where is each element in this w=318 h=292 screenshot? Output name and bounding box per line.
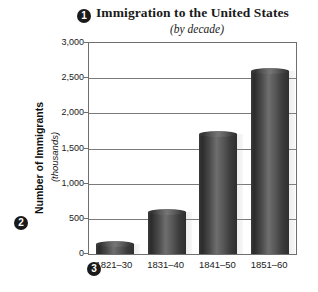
plot-area xyxy=(88,42,297,255)
y-axis-tick-labels: 05001,0001,5002,0002,5003,000 xyxy=(46,42,84,255)
y-axis-tick-label: 3,000 xyxy=(50,37,84,47)
bar xyxy=(199,134,237,254)
x-axis-tick-label: 1841–50 xyxy=(199,259,236,270)
y-axis-tick-mark xyxy=(84,148,88,149)
callout-badge-3: 3 xyxy=(87,262,101,276)
bar xyxy=(251,71,289,254)
bar-top-cap xyxy=(251,68,289,74)
y-axis-tick-label: 2,000 xyxy=(50,107,84,117)
bar-top-cap xyxy=(199,131,237,137)
y-axis-tick-mark xyxy=(84,218,88,219)
chart-title: Immigration to the United States xyxy=(96,5,311,21)
chart-subtitle: (by decade) xyxy=(96,23,298,35)
y-axis-tick-mark xyxy=(84,253,88,254)
bar xyxy=(96,244,134,254)
y-axis-tick-mark xyxy=(84,77,88,78)
y-axis-title-group: Number of Immigrants xyxy=(29,83,45,233)
callout-badge-2: 2 xyxy=(14,216,28,230)
x-axis-tick-label: 1831–40 xyxy=(147,259,184,270)
chart-container: 1 Immigration to the United States (by d… xyxy=(0,0,318,292)
bar-top-cap xyxy=(96,241,134,247)
y-axis-tick-label: 2,500 xyxy=(50,72,84,82)
y-axis-tick-label: 1,500 xyxy=(50,143,84,153)
y-axis-tick-label: 1,000 xyxy=(50,178,84,188)
x-axis-tick-labels: 1821–301831–401841–501851–60 xyxy=(88,259,297,277)
x-axis-tick-label: 1851–60 xyxy=(251,259,288,270)
y-axis-tick-mark xyxy=(84,112,88,113)
bar-top-cap xyxy=(148,209,186,215)
y-axis-tick-label: 0 xyxy=(50,248,84,258)
callout-badge-1: 1 xyxy=(77,9,91,23)
y-axis-tick-mark xyxy=(84,42,88,43)
bar xyxy=(148,212,186,254)
y-axis-tick-mark xyxy=(84,183,88,184)
y-axis-tick-label: 500 xyxy=(50,213,84,223)
